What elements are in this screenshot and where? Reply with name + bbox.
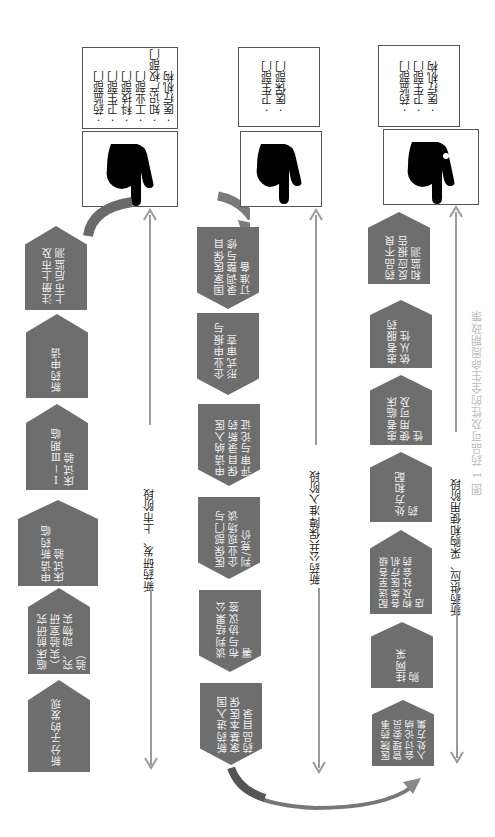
arrow-up-icon <box>308 208 324 222</box>
stage-arrow-up <box>455 212 457 432</box>
step-box: 临床前研究（实验室研究、动物实验） <box>28 588 90 674</box>
step-label: Ⅰ－Ⅲ期临床试验 <box>50 418 76 486</box>
step-box: 新药进入国家基本医保药品目录 <box>200 683 262 765</box>
step-box: 配送至各级各类医疗机构及社会药店 <box>370 530 432 614</box>
step-box: 患者服药依从性 <box>370 300 432 368</box>
arrow-down-icon <box>143 756 159 770</box>
step-label: 医院药事管理委员会讨论纳入处方集 <box>380 710 428 760</box>
step-box: 谈判结果公布与协议签署 <box>199 590 261 672</box>
step-box: 企业申报与形式审查 <box>197 313 259 395</box>
step-box: Ⅰ－Ⅲ期临床试验 <box>26 404 88 490</box>
step-label: 注册上市及上市后监测 <box>41 242 67 304</box>
step-box: 药品不良反应报告和监测 <box>368 212 430 284</box>
hand-box <box>383 129 479 205</box>
step-label: 处方和配药 <box>394 466 420 516</box>
step-label: 患者服药依从性 <box>386 314 412 364</box>
arrow-up-icon <box>448 205 464 219</box>
stage-arrow-down <box>150 590 152 765</box>
departments-box: · 药监部门 · 卫生部门 · 科技部门 · 工业部门 · 知识产权部门 · 医… <box>82 47 178 129</box>
hand-box <box>240 131 322 207</box>
step-label: 配送至各级各类医疗机构及社会药店 <box>378 546 426 608</box>
step-label: 挂网采购 <box>395 638 421 682</box>
step-box: 医保部门与企业现场谈判/竞价 <box>198 497 260 579</box>
departments-box: · 药监部门 · 卫生部门 · 医疗机构 <box>378 45 460 127</box>
stage-label: 新药公共保障准入阶段 <box>308 470 324 585</box>
departments-list: · 药监部门 · 卫生部门 · 医疗机构 <box>399 68 441 112</box>
step-label: 国家医保目录调整与修订准备 <box>213 233 252 295</box>
step-label: 患者临床使用可及性 <box>386 389 425 441</box>
pointing-hand-icon <box>384 130 478 204</box>
step-box: 医院药事管理委员会讨论纳入处方集 <box>372 700 434 766</box>
step-label: 谈判结果公布与协议签署 <box>215 596 254 658</box>
stage-arrow-down <box>456 588 458 758</box>
step-box: 新分子的发现 <box>28 680 90 772</box>
figure-caption: 图 1 药品可及性的全生命周期政策 <box>470 310 486 495</box>
step-box: 处方和配药 <box>370 452 432 522</box>
departments-list: · 卫生部门 · 医保部门 <box>261 72 289 112</box>
step-label: 药品不良反应报告和监测 <box>384 224 423 280</box>
step-box: 申请纳入医保目录新药评审与论证 <box>198 404 260 486</box>
pointing-hand-icon <box>241 132 321 206</box>
step-box: 挂网采购 <box>371 622 433 688</box>
step-box: 患者临床使用可及性 <box>370 375 432 445</box>
step-label: 医保部门与企业现场谈判/竞价 <box>214 501 253 567</box>
step-box: 申请新药临床试验 <box>18 500 98 586</box>
departments-list: · 药监部门 · 卫生部门 · 科技部门 · 工业部门 · 知识产权部门 · 医… <box>93 56 177 122</box>
step-label: 临床前研究（实验室研究、动物实验） <box>36 604 88 670</box>
step-box: 新药申请 <box>26 314 88 398</box>
step-label: 新药进入国家基本医保药品目录 <box>216 687 255 753</box>
stage-arrow-up <box>315 215 317 445</box>
step-label: 申请新药临床试验 <box>40 516 66 582</box>
step-box: 国家医保目录调整与修订准备 <box>197 227 259 309</box>
step-label: 新药申请 <box>50 332 63 392</box>
departments-box: · 卫生部门 · 医保部门 <box>238 47 320 127</box>
step-label: 新分子的发现 <box>50 696 63 766</box>
arrow-down-icon <box>449 750 465 764</box>
step-label: 申请纳入医保目录新药评审与论证 <box>214 408 253 476</box>
connector-arrow-bottom <box>225 760 425 820</box>
stage-label: 新药研发、上市阶段 <box>142 488 158 592</box>
stage-arrow-down <box>318 588 320 768</box>
step-label: 企业申报与形式审查 <box>213 321 239 379</box>
